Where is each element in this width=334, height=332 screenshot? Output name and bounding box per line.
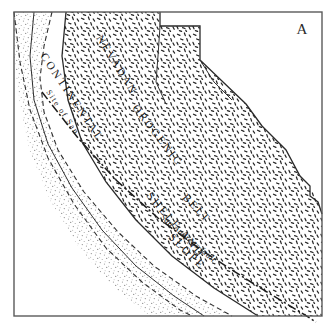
panel-letter-label: A [297,21,308,37]
map-canvas: CONTINENTAL SHELF AND SLOPE Site of San … [0,0,334,332]
geologic-map-figure: CONTINENTAL SHELF AND SLOPE Site of San … [0,0,334,332]
